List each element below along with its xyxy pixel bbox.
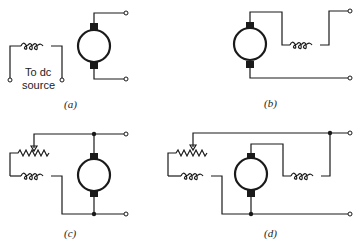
source-label-line2: source [22,79,55,91]
panel-a: To dc source (a) [8,11,128,111]
armature-icon [78,153,110,197]
rheostat-icon [10,150,49,176]
armature-icon [78,13,124,79]
terminal [348,131,352,135]
terminal [124,212,128,216]
terminal [60,78,64,82]
series-field-coil-icon [291,173,313,179]
junction-node [249,212,253,216]
dc-motor-connection-diagram: To dc source (a) (b) [0,0,360,247]
shunt-field-coil-icon [181,173,203,179]
armature-icon [234,22,266,68]
panel-c: (c) [10,132,128,240]
panel-b: (b) [234,9,352,110]
panel-label: (a) [64,98,77,111]
terminal [348,9,352,13]
panel-d: (d) [168,131,352,240]
terminal [8,78,12,82]
terminal [348,212,352,216]
terminal [124,132,128,136]
rheostat-icon [168,150,207,176]
panel-label: (b) [264,97,277,110]
panel-label: (c) [64,227,77,240]
junction-node [328,131,332,135]
armature-icon [235,153,267,197]
terminal [124,11,128,15]
panel-label: (d) [264,227,277,240]
field-coil-icon [21,173,43,179]
junction-node [92,212,96,216]
source-label-line1: To dc [25,66,52,78]
terminal [348,76,352,80]
junction-node [92,132,96,136]
terminal [124,77,128,81]
